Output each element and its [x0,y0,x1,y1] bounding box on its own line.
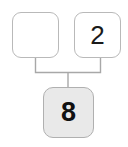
node-top-right-value: 2 [90,22,104,48]
node-top-right[interactable]: 2 [74,12,121,58]
node-bottom-whole[interactable]: 8 [43,87,94,138]
node-top-left[interactable] [12,12,59,58]
diagram-canvas: 2 8 [0,0,128,147]
node-bottom-value: 8 [61,99,76,126]
connector-top-bridge [36,58,101,73]
